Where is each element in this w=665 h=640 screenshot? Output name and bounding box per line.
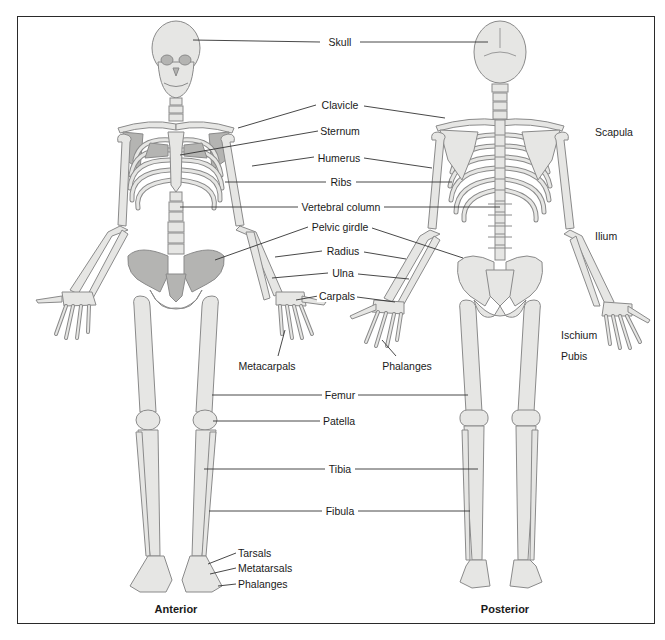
- label-humerus: Humerus: [316, 152, 363, 164]
- anterior-foot-left: [182, 556, 222, 592]
- label-metatarsals: Metatarsals: [236, 562, 294, 574]
- anterior-skull: [152, 21, 200, 98]
- label-phalanges-foot: Phalanges: [236, 578, 290, 590]
- label-vertebral-column: Vertebral column: [300, 201, 383, 213]
- label-patella: Patella: [321, 415, 357, 427]
- anterior-cervical-spine: [169, 98, 183, 121]
- label-clavicle: Clavicle: [320, 99, 361, 111]
- anterior-humerus-left: [221, 134, 244, 226]
- anterior-patella-right: [136, 410, 160, 430]
- posterior-foot-right: [460, 560, 490, 588]
- anterior-foot-right: [130, 556, 172, 592]
- label-femur: Femur: [323, 389, 357, 401]
- label-scapula: Scapula: [593, 126, 635, 138]
- label-phalanges-hand: Phalanges: [380, 360, 434, 372]
- posterior-skeleton: [350, 21, 650, 588]
- label-pubis: Pubis: [559, 350, 589, 362]
- anterior-clavicle-right: [118, 122, 176, 133]
- label-ischium: Ischium: [559, 329, 599, 341]
- label-tibia: Tibia: [327, 463, 353, 475]
- label-metacarpals: Metacarpals: [236, 360, 297, 372]
- posterior-clavicle-right: [436, 119, 500, 131]
- posterior-cervical-spine: [492, 84, 508, 119]
- posterior-hand-right: [350, 300, 404, 346]
- skeleton-illustration: .b { fill:#e6e6e4; stroke:#8a8a8a; strok…: [0, 0, 665, 640]
- anterior-skeleton: [36, 21, 326, 592]
- label-carpals: Carpals: [317, 290, 357, 302]
- label-skull: Skull: [327, 36, 354, 48]
- label-ulna: Ulna: [330, 267, 356, 279]
- anterior-patella-left: [193, 410, 217, 430]
- label-tarsals: Tarsals: [236, 547, 273, 559]
- view-label-posterior: Posterior: [481, 603, 529, 615]
- anterior-femur-right: [134, 296, 156, 412]
- posterior-humerus-left: [555, 132, 574, 229]
- posterior-humerus-right: [428, 132, 445, 229]
- anterior-sternum: [168, 132, 184, 192]
- posterior-clavicle-left: [500, 119, 564, 131]
- anterior-vertebral-column: [168, 192, 184, 254]
- label-sternum: Sternum: [318, 125, 362, 137]
- posterior-femur-left: [518, 300, 540, 412]
- posterior-foot-left: [510, 560, 542, 588]
- view-label-anterior: Anterior: [155, 603, 198, 615]
- label-radius: Radius: [325, 245, 362, 257]
- posterior-knee-right: [460, 410, 488, 426]
- posterior-hand-left: [602, 302, 650, 348]
- posterior-knee-left: [512, 410, 540, 426]
- label-fibula: Fibula: [324, 505, 357, 517]
- anterior-clavicle-left: [176, 122, 234, 133]
- posterior-skull: [474, 21, 526, 83]
- label-ribs: Ribs: [328, 176, 353, 188]
- label-ilium: Ilium: [593, 230, 619, 242]
- anterior-hand-right: [36, 292, 96, 338]
- label-pelvic-girdle: Pelvic girdle: [310, 221, 371, 233]
